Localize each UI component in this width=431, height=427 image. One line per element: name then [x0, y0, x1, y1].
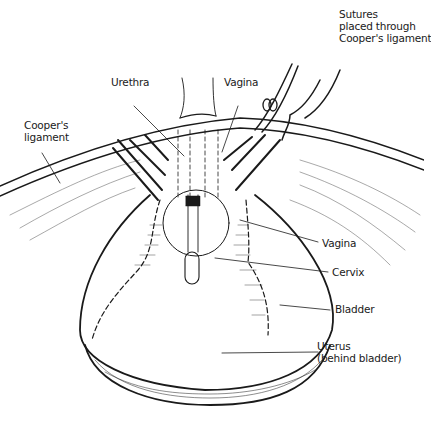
uterus-line-2: (behind bladder) — [317, 352, 401, 364]
coopers-line-2: ligament — [24, 131, 69, 143]
label-vagina-right: Vagina — [322, 237, 356, 249]
label-cervix: Cervix — [332, 266, 364, 278]
label-urethra: Urethra — [111, 76, 149, 88]
coopers-line-1: Cooper's — [24, 119, 69, 131]
sutures-line-3: Cooper's ligament — [339, 32, 431, 44]
sutures-line-1: Sutures — [339, 8, 431, 20]
uterus-line-1: Uterus — [317, 340, 401, 352]
label-bladder: Bladder — [335, 303, 374, 315]
label-coopers-ligament: Cooper's ligament — [24, 119, 69, 143]
label-vagina-top: Vagina — [224, 76, 258, 88]
label-sutures: Sutures placed through Cooper's ligament — [339, 8, 431, 44]
sutures-line-2: placed through — [339, 20, 431, 32]
label-uterus: Uterus (behind bladder) — [317, 340, 401, 364]
